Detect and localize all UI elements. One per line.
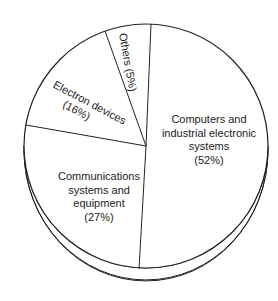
svg-text:equipment: equipment [73, 197, 124, 209]
svg-text:industrial electronic: industrial electronic [162, 127, 257, 139]
svg-text:Communications: Communications [58, 170, 140, 182]
svg-text:systems: systems [189, 140, 230, 152]
pie-chart: Computers and industrial electronic syst… [0, 0, 278, 301]
svg-text:systems and: systems and [68, 184, 130, 196]
svg-text:(52%): (52%) [194, 154, 223, 166]
svg-text:(27%): (27%) [84, 211, 113, 223]
svg-text:Computers and: Computers and [171, 113, 246, 125]
